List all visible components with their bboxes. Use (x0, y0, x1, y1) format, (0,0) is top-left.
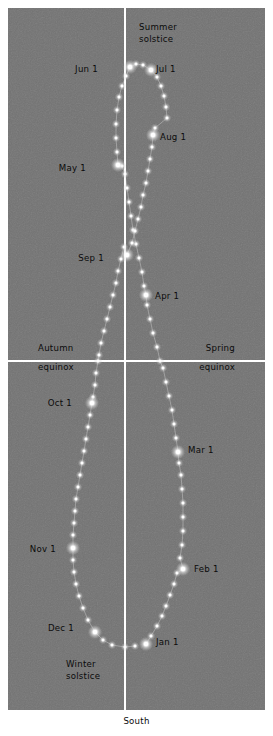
sun-marker-core (72, 559, 75, 562)
sun-marker-core (147, 170, 150, 173)
sun-marker-core (126, 187, 129, 190)
annotation-summer-solstice: Summer solstice (139, 22, 209, 45)
sun-marker-core (156, 346, 159, 349)
sun-marker-core (117, 270, 120, 273)
sun-marker-core (75, 498, 78, 501)
sun-marker-core (131, 242, 134, 245)
sun-marker-core (181, 488, 184, 491)
sun-marker-core (106, 318, 109, 321)
sun-marker-core (116, 151, 119, 154)
sun-marker-core (109, 306, 112, 309)
sun-marker-core (176, 450, 180, 454)
sun-marker-core (169, 594, 172, 597)
sun-position-markers (66, 60, 190, 652)
sun-marker-core (182, 530, 185, 533)
sun-marker-core (94, 384, 97, 387)
sun-marker-core (128, 65, 132, 69)
figure-canvas: Summer solstice Winter solstice Autumn e… (0, 0, 273, 736)
sun-marker-core (149, 158, 152, 161)
sun-marker-core (115, 137, 118, 140)
sun-marker-core (171, 409, 174, 412)
sun-marker-core (125, 75, 128, 78)
month-label-aug-text: Aug 1 (160, 132, 186, 142)
sun-marker-core (145, 182, 148, 185)
month-label-jan-text: Jan 1 (156, 637, 179, 647)
sun-marker-core (165, 381, 168, 384)
sun-marker-core (120, 258, 123, 261)
sun-marker-core (179, 557, 182, 560)
sun-marker-core (116, 163, 120, 167)
sun-marker-core (128, 201, 131, 204)
month-label-sep: Sep 1 (56, 253, 104, 265)
sun-marker-core (144, 293, 148, 297)
summer-solstice-line2: solstice (139, 34, 209, 46)
sun-marker-core (138, 257, 141, 260)
spring-equinox-line1: Spring (175, 343, 235, 355)
sun-marker-core (141, 271, 144, 274)
sun-marker-core (124, 646, 127, 649)
month-label-feb-text: Feb 1 (194, 564, 219, 574)
sun-marker-core (103, 330, 106, 333)
south-axis-label: South (0, 716, 273, 726)
sun-marker-core (160, 85, 163, 88)
sun-marker-core (73, 571, 76, 574)
sun-marker-core (168, 395, 171, 398)
sun-marker-core (161, 615, 164, 618)
month-label-jul-text: Jul 1 (156, 64, 176, 74)
winter-solstice-line1: Winter (66, 659, 100, 671)
sun-marker-core (178, 462, 181, 465)
month-label-dec-text: Dec 1 (48, 623, 74, 633)
sun-marker-core (74, 510, 77, 513)
month-label-apr: Apr 1 (155, 291, 179, 303)
sun-marker-core (73, 522, 76, 525)
sun-marker-core (140, 206, 143, 209)
sun-marker-core (87, 619, 90, 622)
sun-marker-core (98, 354, 101, 357)
sky-plot-area: Summer solstice Winter solstice Autumn e… (8, 8, 265, 710)
sun-marker-core (124, 173, 127, 176)
summer-solstice-line1: Summer (139, 22, 209, 34)
sun-marker-core (180, 474, 183, 477)
sun-marker-core (82, 607, 85, 610)
sun-marker-core (166, 117, 169, 120)
sun-marker-core (181, 567, 185, 571)
sun-marker-core (93, 630, 97, 634)
sun-marker-core (102, 639, 105, 642)
sun-marker-core (75, 583, 78, 586)
sun-marker-core (90, 401, 94, 405)
sun-marker-core (123, 246, 126, 249)
sun-marker-core (115, 282, 118, 285)
sun-marker-core (181, 544, 184, 547)
sun-marker-core (149, 318, 152, 321)
month-label-jul: Jul 1 (156, 64, 176, 76)
sun-marker-core (112, 294, 115, 297)
month-label-dec: Dec 1 (26, 623, 74, 635)
sun-marker-core (144, 642, 148, 646)
month-label-apr-text: Apr 1 (155, 291, 179, 301)
annotation-winter-solstice: Winter solstice (66, 659, 100, 682)
sun-marker-core (81, 462, 84, 465)
analemma-trace (73, 64, 183, 647)
month-label-nov: Nov 1 (8, 544, 56, 556)
sun-marker-core (111, 644, 114, 647)
sun-marker-core (125, 253, 129, 257)
sun-marker-core (156, 76, 159, 79)
sun-marker-core (135, 63, 138, 66)
sun-marker-core (165, 605, 168, 608)
sun-marker-core (83, 450, 86, 453)
sun-marker-core (163, 95, 166, 98)
month-label-jun: Jun 1 (50, 64, 98, 76)
sun-marker-core (95, 372, 98, 375)
month-label-jun-text: Jun 1 (75, 64, 98, 74)
sun-marker-core (143, 285, 146, 288)
month-label-nov-text: Nov 1 (30, 544, 56, 554)
month-label-may-text: May 1 (59, 163, 86, 173)
sun-marker-core (100, 342, 103, 345)
sun-marker-core (162, 367, 165, 370)
sun-marker-core (142, 194, 145, 197)
sun-marker-core (146, 304, 149, 307)
sun-marker-core (175, 437, 178, 440)
sun-marker-core (173, 583, 176, 586)
sun-marker-core (159, 360, 162, 363)
sun-marker-core (121, 85, 124, 88)
